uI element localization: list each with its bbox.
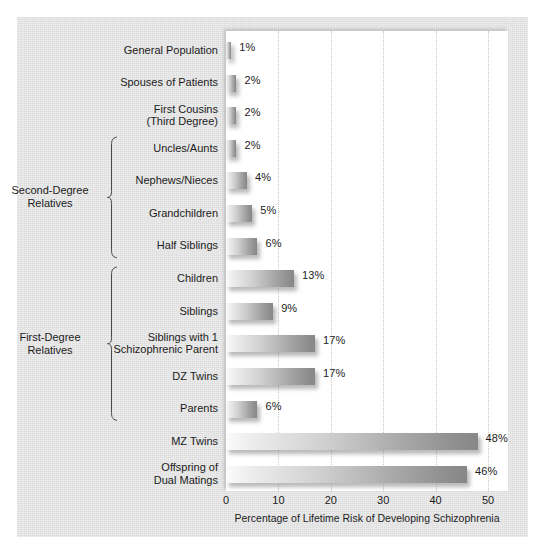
x-tick-label: 10 [272, 494, 284, 506]
x-tick-label: 20 [325, 494, 337, 506]
x-tick-label: 50 [482, 494, 494, 506]
x-axis-layer: Percentage of Lifetime Risk of Developin… [0, 0, 548, 557]
x-tick-label: 30 [377, 494, 389, 506]
x-tick-label: 40 [429, 494, 441, 506]
chart-page: 1%2%2%2%4%5%6%13%9%17%17%6%48%46% Genera… [0, 0, 548, 557]
x-axis-title: Percentage of Lifetime Risk of Developin… [226, 512, 508, 524]
x-tick-label: 0 [223, 494, 229, 506]
